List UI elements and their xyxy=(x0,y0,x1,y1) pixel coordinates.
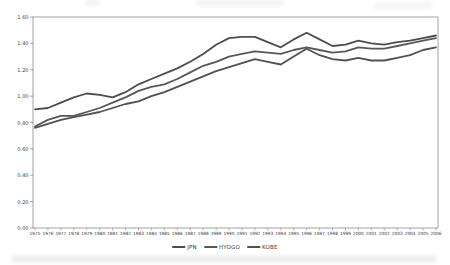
legend-label-jpn: JPN xyxy=(187,244,197,250)
legend-line-swatch-hyogo xyxy=(204,246,217,248)
x-axis-tick-label: 2005 xyxy=(418,231,429,236)
x-axis-tick-label: 1997 xyxy=(314,231,325,236)
x-axis-tick-label: 1987 xyxy=(185,231,196,236)
x-axis-tick-label: 1991 xyxy=(236,231,247,236)
x-axis-tick-label: 1978 xyxy=(68,231,79,236)
chart-legend: JPNHYOGOKOBE xyxy=(172,244,277,250)
y-axis-tick-label: 1.20 xyxy=(17,67,28,73)
y-axis-tick-label: 0.80 xyxy=(17,120,28,126)
x-axis-tick-label: 1996 xyxy=(301,231,312,236)
x-axis-tick-label: 2001 xyxy=(366,231,377,236)
x-axis-tick-label: 1981 xyxy=(107,231,118,236)
x-axis-tick-label: 2002 xyxy=(379,231,390,236)
x-axis-tick-label: 1999 xyxy=(340,231,351,236)
y-axis-tick-label: 1.40 xyxy=(17,40,28,46)
x-axis-tick-label: 1990 xyxy=(224,231,235,236)
x-axis-tick-label: 1982 xyxy=(120,231,131,236)
x-axis-tick-label: 1992 xyxy=(249,231,260,236)
y-axis-tick-label: 0.60 xyxy=(17,146,28,152)
chart-page: 0.000.200.400.600.801.001.201.401.601975… xyxy=(0,0,450,265)
y-axis-tick-label: 0.00 xyxy=(17,225,28,231)
line-chart-canvas: 0.000.200.400.600.801.001.201.401.601975… xyxy=(0,0,450,265)
x-axis-tick-label: 1983 xyxy=(133,231,144,236)
x-axis-tick-label: 1993 xyxy=(262,231,273,236)
x-axis-tick-label: 2000 xyxy=(353,231,364,236)
x-axis-tick-label: 1976 xyxy=(42,231,53,236)
x-axis-tick-label: 1986 xyxy=(172,231,183,236)
y-axis-tick-label: 0.40 xyxy=(17,172,28,178)
y-axis-tick-label: 0.20 xyxy=(17,199,28,205)
x-axis-tick-label: 1984 xyxy=(146,231,157,236)
x-axis-tick-label: 1998 xyxy=(327,231,338,236)
x-axis-tick-label: 1975 xyxy=(30,231,41,236)
x-axis-tick-label: 1979 xyxy=(81,231,92,236)
x-axis-tick-label: 1989 xyxy=(211,231,222,236)
x-axis-tick-label: 1985 xyxy=(159,231,170,236)
x-axis-tick-label: 1980 xyxy=(94,231,105,236)
y-axis-tick-label: 1.60 xyxy=(17,14,28,20)
y-axis-tick-label: 1.00 xyxy=(17,93,28,99)
legend-label-kobe: KOBE xyxy=(262,244,278,250)
legend-line-swatch-kobe xyxy=(247,246,260,248)
x-axis-tick-label: 2006 xyxy=(431,231,442,236)
x-axis-tick-label: 1994 xyxy=(275,231,286,236)
x-axis-tick-label: 1995 xyxy=(288,231,299,236)
x-axis-tick-label: 1988 xyxy=(198,231,209,236)
legend-item-jpn: JPN xyxy=(172,244,197,250)
x-axis-tick-label: 2003 xyxy=(392,231,403,236)
x-axis-tick-label: 2004 xyxy=(405,231,416,236)
legend-line-swatch-jpn xyxy=(172,246,185,248)
legend-item-kobe: KOBE xyxy=(247,244,278,250)
legend-item-hyogo: HYOGO xyxy=(204,244,240,250)
x-axis-tick-label: 1977 xyxy=(55,231,66,236)
legend-label-hyogo: HYOGO xyxy=(219,244,240,250)
